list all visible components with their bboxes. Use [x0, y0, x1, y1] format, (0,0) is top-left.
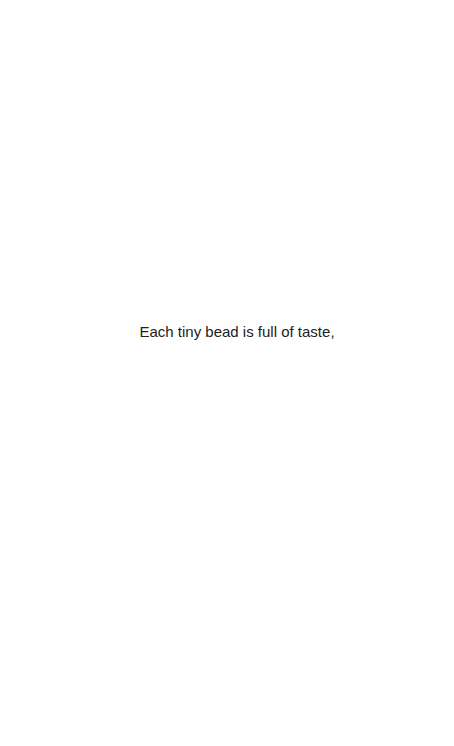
caption-text: Each tiny bead is full of taste, — [0, 323, 454, 341]
page: Each tiny bead is full of taste, — [0, 0, 454, 746]
